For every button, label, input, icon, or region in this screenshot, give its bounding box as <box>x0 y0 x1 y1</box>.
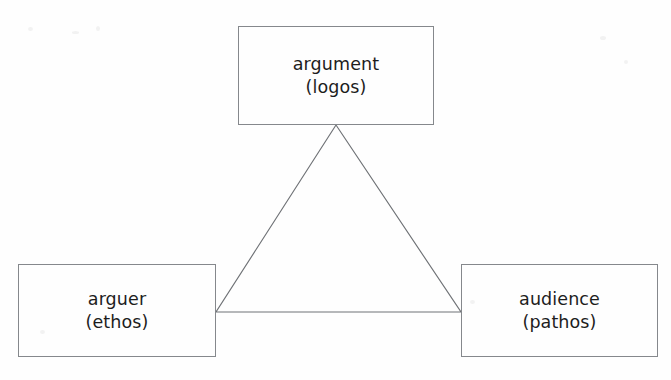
node-arguer-label-secondary: (ethos) <box>86 311 149 333</box>
scan-artifact <box>600 36 606 40</box>
scan-artifact <box>28 27 33 31</box>
node-arguer: arguer (ethos) <box>18 264 216 357</box>
scan-artifact <box>624 60 628 64</box>
node-argument-label-primary: argument <box>293 53 379 75</box>
node-argument: argument (logos) <box>238 26 434 125</box>
node-audience: audience (pathos) <box>461 264 658 357</box>
rhetorical-triangle-diagram: argument (logos) arguer (ethos) audience… <box>0 0 671 380</box>
node-argument-label-secondary: (logos) <box>306 76 367 98</box>
node-arguer-label-primary: arguer <box>88 288 146 310</box>
node-audience-label-primary: audience <box>519 288 600 310</box>
triangle-shape <box>216 125 461 312</box>
scan-artifact <box>72 31 79 34</box>
scan-artifact <box>96 26 100 31</box>
node-audience-label-secondary: (pathos) <box>522 311 596 333</box>
